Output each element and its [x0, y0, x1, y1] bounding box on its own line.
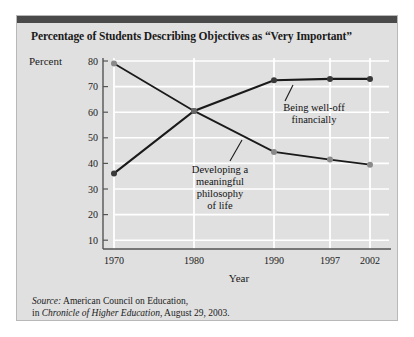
source-publisher: American Council on Education,: [61, 296, 188, 306]
chart-plot-area: 80 70 60 50 40 30 20 10 Percent 1970 198…: [17, 16, 399, 322]
x-axis-tick-labels: 1970 1980 1990 1997 2002: [104, 255, 380, 266]
series-being-well-off: [111, 76, 373, 176]
y-axis-title: Percent: [29, 55, 62, 67]
source-note-line-2: in Chronicle of Higher Education, August…: [32, 308, 230, 320]
data-point-developing-philosophy-1970: [111, 61, 117, 67]
y-tick-30: 30: [88, 184, 98, 195]
data-point-developing-philosophy-1990: [271, 149, 277, 155]
x-tick-1970: 1970: [104, 255, 124, 266]
data-point-being-well-off-1997: [327, 76, 333, 82]
y-tick-50: 50: [88, 132, 98, 143]
x-tick-1990: 1990: [264, 255, 284, 266]
annotation-label-developing-philosophy-line1: Developing a: [192, 164, 249, 175]
y-tick-20: 20: [88, 209, 98, 220]
source-note-line-1: Source: American Council on Education,: [32, 296, 230, 308]
source-journal: Chronicle of Higher Education: [42, 308, 160, 318]
annotation-leader-line-developing-philosophy: [230, 140, 242, 161]
y-tick-70: 70: [88, 81, 98, 92]
y-tick-40: 40: [88, 158, 98, 169]
x-axis-title: Year: [229, 272, 250, 284]
annotation-label-being-well-off-line1: Being well-off: [283, 102, 345, 113]
x-tick-2002: 2002: [360, 255, 380, 266]
x-tick-1980: 1980: [184, 255, 204, 266]
y-tick-10: 10: [88, 235, 98, 246]
annotation-developing-philosophy: Developing a meaningful philosophy of li…: [192, 140, 249, 211]
data-point-developing-philosophy-2002: [367, 162, 373, 168]
source-in-word: in: [32, 308, 42, 318]
x-tick-1997: 1997: [320, 255, 340, 266]
source-note: Source: American Council on Education, i…: [32, 296, 230, 319]
data-point-being-well-off-2002: [367, 76, 373, 82]
y-tick-80: 80: [88, 56, 98, 67]
annotation-being-well-off: Being well-off financially: [283, 85, 345, 125]
source-prefix: Source:: [32, 296, 61, 306]
annotation-label-developing-philosophy-line4: of life: [207, 200, 233, 211]
annotation-label-developing-philosophy-line3: philosophy: [197, 188, 244, 199]
annotation-leader-line-being-well-off: [285, 85, 293, 101]
annotation-label-being-well-off-line2: financially: [292, 114, 338, 125]
data-point-being-well-off-1970: [111, 170, 117, 176]
y-axis-tick-labels: 80 70 60 50 40 30 20 10: [88, 56, 98, 246]
y-tick-60: 60: [88, 107, 98, 118]
data-point-developing-philosophy-1980: [191, 108, 197, 114]
source-date: , August 29, 2003.: [160, 308, 230, 318]
figure-container: Percentage of Students Describing Object…: [16, 15, 398, 321]
data-point-developing-philosophy-1997: [327, 157, 333, 163]
data-point-being-well-off-1990: [271, 77, 277, 83]
annotation-label-developing-philosophy-line2: meaningful: [196, 176, 244, 187]
